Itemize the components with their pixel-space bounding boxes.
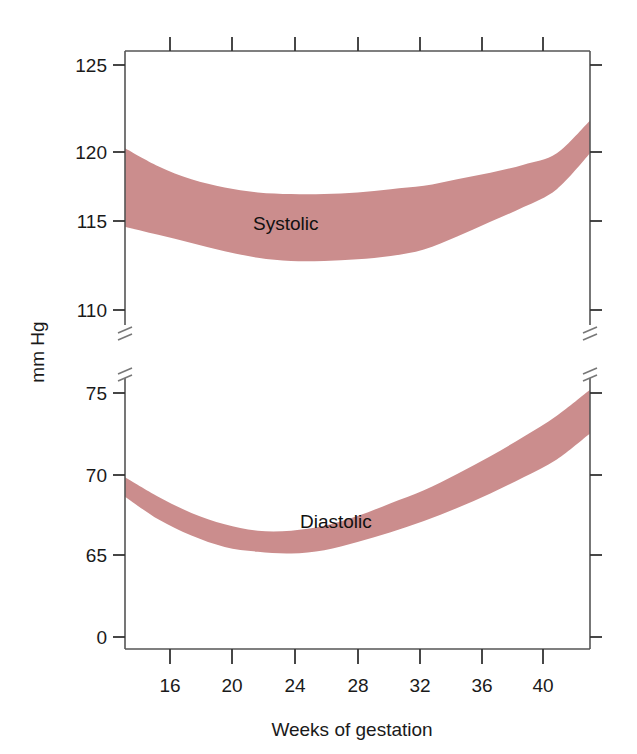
blood-pressure-chart: 125 120 115 110 Systolic: [0, 0, 637, 754]
diastolic-ytick-label-1: 70: [86, 465, 107, 486]
x-axis-title: Weeks of gestation: [271, 719, 432, 740]
systolic-ytick-label-1: 120: [75, 142, 107, 163]
systolic-series-label: Systolic: [253, 213, 318, 234]
systolic-left-ticks: [113, 65, 125, 310]
diastolic-ytick-label-3: 0: [96, 627, 107, 648]
xtick-label-2: 24: [284, 675, 306, 696]
panel-diastolic: 75 70 65 0 Diastolic: [86, 368, 602, 664]
systolic-ytick-label-3: 110: [77, 300, 107, 321]
x-axis-tick-labels: 16 20 24 28 32 36 40: [159, 675, 553, 696]
xtick-label-1: 20: [221, 675, 242, 696]
chart-canvas: 125 120 115 110 Systolic: [0, 0, 637, 754]
xtick-label-4: 32: [409, 675, 430, 696]
systolic-band: [125, 121, 590, 262]
diastolic-ytick-label-0: 75: [86, 383, 107, 404]
xtick-label-6: 40: [532, 675, 553, 696]
systolic-right-ticks: [590, 65, 602, 310]
xtick-label-5: 36: [471, 675, 492, 696]
diastolic-axis-break: [118, 368, 597, 381]
systolic-ytick-label-2: 115: [77, 211, 107, 232]
diastolic-left-ticks: [113, 393, 125, 637]
systolic-ytick-label-0: 125: [75, 55, 107, 76]
systolic-axis-break: [118, 327, 597, 340]
diastolic-bottom-ticks: [170, 649, 543, 664]
diastolic-ytick-label-2: 65: [86, 545, 107, 566]
diastolic-right-ticks: [590, 393, 602, 637]
y-axis-title: mm Hg: [27, 321, 48, 382]
xtick-label-3: 28: [347, 675, 368, 696]
panel-systolic: 125 120 115 110 Systolic: [75, 37, 602, 340]
systolic-top-ticks: [170, 37, 543, 51]
xtick-label-0: 16: [159, 675, 180, 696]
diastolic-series-label: Diastolic: [300, 511, 372, 532]
